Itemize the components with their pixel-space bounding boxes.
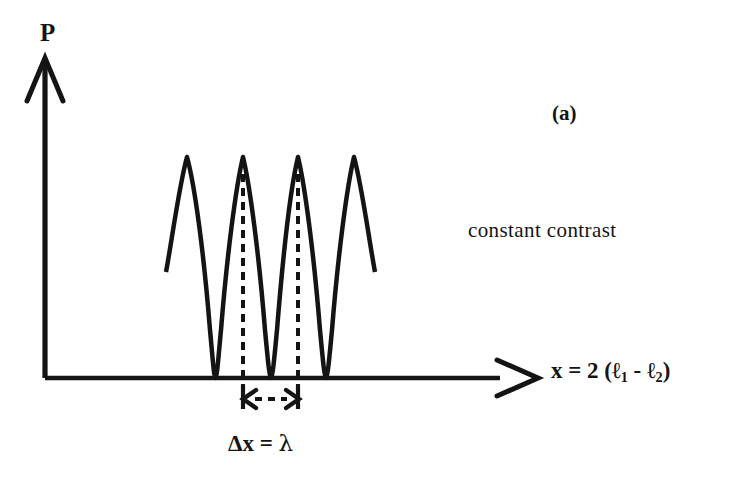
y-axis-label: P bbox=[40, 20, 55, 45]
fringe-curve-group bbox=[166, 157, 375, 378]
panel-label: (a) bbox=[552, 103, 577, 124]
interference-figure: P (a) constant contrast x = 2 (ℓ1 - ℓ2) … bbox=[0, 0, 734, 485]
constant-contrast-annotation: constant contrast bbox=[468, 220, 617, 241]
x-axis-label-suffix: ) bbox=[663, 358, 671, 383]
spacing-measure-label: Δx = λ bbox=[228, 432, 293, 455]
x-axis-group bbox=[45, 360, 538, 396]
ell-symbol-2: ℓ bbox=[647, 356, 656, 383]
ell-symbol-1: ℓ bbox=[612, 356, 621, 383]
figure-canvas bbox=[0, 0, 734, 485]
ell-subscript-1: 1 bbox=[621, 369, 628, 385]
spacing-measure-group bbox=[243, 385, 299, 409]
y-axis-group bbox=[27, 58, 63, 378]
x-axis-label-prefix: x = 2 ( bbox=[551, 358, 612, 383]
x-axis-label: x = 2 (ℓ1 - ℓ2) bbox=[551, 358, 670, 384]
ell-subscript-2: 2 bbox=[656, 369, 663, 385]
x-axis-label-minus: - bbox=[628, 358, 647, 383]
delta-x-text: Δx = bbox=[228, 431, 279, 456]
intensity-curve bbox=[166, 157, 375, 378]
lambda-symbol: λ bbox=[279, 430, 294, 456]
x-axis-arrowhead-icon bbox=[497, 360, 538, 396]
